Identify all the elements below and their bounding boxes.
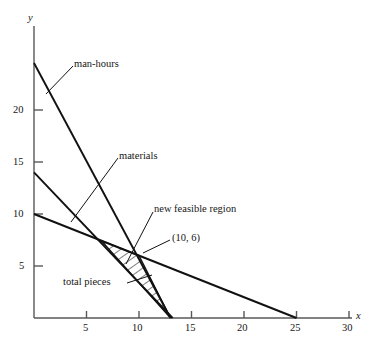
materials-leader (71, 158, 118, 222)
x-axis-label: x (356, 310, 361, 321)
new-feasible-region-label: new feasible region (154, 203, 236, 214)
x-tick-label-15: 15 (185, 322, 196, 333)
x-tick-label-5: 5 (83, 322, 88, 333)
y-tick-marks (34, 110, 43, 266)
y-tick-label-15: 15 (13, 156, 24, 167)
vertex-point-leader (143, 240, 170, 253)
x-tick-marks (87, 311, 350, 318)
x-tick-label-25: 25 (290, 322, 301, 333)
axes-group (34, 26, 352, 318)
man-hours-label: man-hours (74, 58, 119, 69)
chart-canvas (0, 0, 370, 350)
materials-label: materials (119, 150, 157, 161)
x-tick-label-20: 20 (237, 322, 248, 333)
x-tick-label-10: 10 (132, 322, 143, 333)
y-axis-label: y (28, 12, 33, 23)
linear-programming-chart: y x 5 10 15 20 25 30 5 10 15 20 man-hour… (0, 0, 370, 350)
man-hours-leader (46, 66, 73, 94)
total-pieces-label: total pieces (63, 276, 111, 287)
total-pieces-line (34, 214, 297, 318)
y-tick-label-20: 20 (13, 104, 24, 115)
y-tick-label-5: 5 (19, 260, 24, 271)
vertex-point-label: (10, 6) (172, 232, 200, 243)
y-tick-label-10: 10 (13, 208, 24, 219)
x-tick-label-30: 30 (342, 322, 353, 333)
